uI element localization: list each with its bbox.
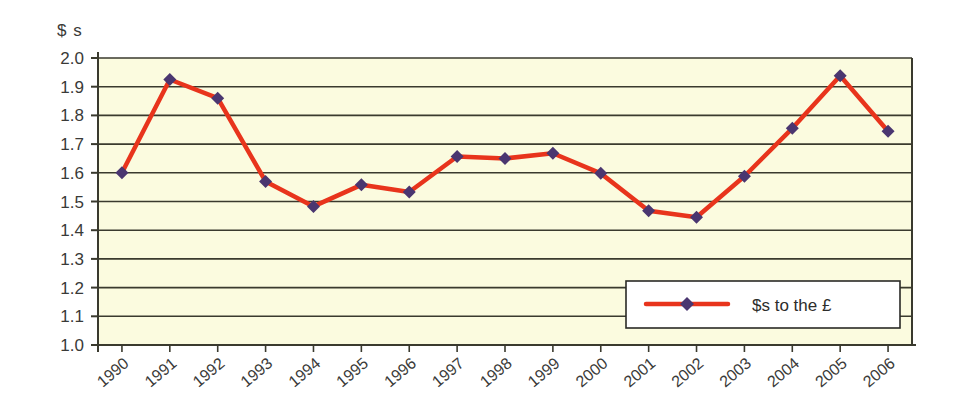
- y-axis-tick-label: 1.9: [60, 78, 84, 97]
- y-axis-tick-label: 1.7: [60, 135, 84, 154]
- y-axis-tick-label: 2.0: [60, 49, 84, 68]
- y-axis-tick-label: 1.4: [60, 221, 84, 240]
- y-axis-tick-label: 1.5: [60, 193, 84, 212]
- y-axis-tick-label: 1.6: [60, 164, 84, 183]
- y-axis-tick-label: 1.3: [60, 250, 84, 269]
- legend[interactable]: $s to the £: [626, 281, 900, 328]
- y-axis-title: $ s: [57, 21, 83, 40]
- y-axis-tick-label: 1.2: [60, 279, 84, 298]
- legend-label: $s to the £: [752, 296, 832, 315]
- chart-container: 2.01.91.81.71.61.51.41.31.21.11.0 199019…: [0, 0, 960, 416]
- y-axis-tick-label: 1.8: [60, 106, 84, 125]
- y-axis-tick-labels: 2.01.91.81.71.61.51.41.31.21.11.0: [60, 49, 84, 355]
- y-axis-tick-label: 1.1: [60, 307, 84, 326]
- y-axis-tick-label: 1.0: [60, 336, 84, 355]
- line-chart: 2.01.91.81.71.61.51.41.31.21.11.0 199019…: [0, 0, 960, 416]
